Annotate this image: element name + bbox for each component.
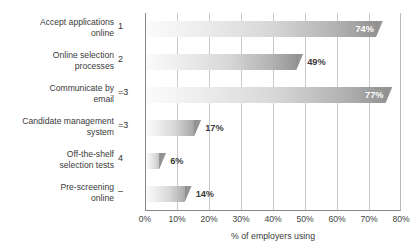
category-label: Accept applications online [0, 17, 114, 38]
bar [146, 54, 302, 70]
gridline [177, 13, 178, 210]
bar-tip [385, 87, 392, 103]
bar-value-label: 6% [170, 153, 183, 169]
bar-tip [185, 186, 192, 202]
x-tick-label: 10% [160, 214, 194, 224]
category-label: Pre-screening online [0, 182, 114, 203]
bar-tip [296, 54, 303, 70]
bar-tip [376, 21, 383, 37]
plot-area: 74%49%77%17%6%14% [145, 13, 401, 211]
category-label: Candidate management system [0, 116, 114, 137]
x-tick-label: 70% [352, 214, 386, 224]
rank-mark: 2 [118, 54, 140, 64]
bar [146, 186, 191, 202]
bar [146, 120, 200, 136]
rank-mark: =3 [118, 87, 140, 97]
x-tick-label: 80% [384, 214, 418, 224]
x-tick-label: 30% [224, 214, 258, 224]
gridline [305, 13, 306, 210]
rank-column: 1 2 =3 =3 4 – [118, 0, 140, 212]
rank-mark: 4 [118, 153, 140, 163]
x-tick-label: 0% [128, 214, 162, 224]
x-tick-label: 60% [320, 214, 354, 224]
bar-value-label: 77% [345, 87, 383, 103]
gridline [209, 13, 210, 210]
x-tick-label: 40% [256, 214, 290, 224]
rank-mark: 1 [118, 21, 140, 31]
gridline [273, 13, 274, 210]
bar-value-label: 49% [307, 54, 325, 70]
category-axis: Accept applications online Online select… [0, 0, 114, 212]
gridline [337, 13, 338, 210]
bar-tip [159, 153, 166, 169]
x-tick-label: 50% [288, 214, 322, 224]
bar-value-label: 74% [336, 21, 374, 37]
rank-mark: =3 [118, 120, 140, 130]
rank-mark: – [118, 186, 140, 196]
bar-chart: Accept applications online Online select… [0, 0, 420, 252]
category-label: Communicate by email [0, 83, 114, 104]
x-tick-label: 20% [192, 214, 226, 224]
category-label: Off-the-shelf selection tests [0, 149, 114, 170]
x-axis-title: % of employers using [145, 231, 401, 241]
bar-tip [194, 120, 201, 136]
bar-value-label: 17% [205, 120, 223, 136]
category-label: Online selection processes [0, 50, 114, 71]
gridline [241, 13, 242, 210]
gridline [369, 13, 370, 210]
bar-value-label: 14% [196, 186, 214, 202]
